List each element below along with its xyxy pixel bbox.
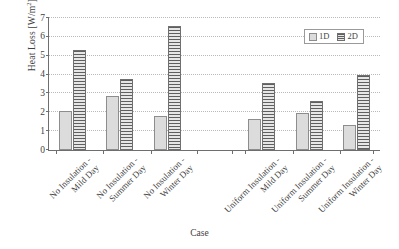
gridline [49,130,380,131]
x-tick-mark [293,150,294,154]
bar-1d-3 [154,116,167,150]
x-tick-mark [103,150,104,154]
x-axis-title: Case [0,228,399,238]
gridline [49,74,380,75]
bar-2d-3 [168,26,181,150]
y-tick-label: 3 [25,89,45,99]
bar-1d-5 [296,113,309,150]
gridline [49,111,380,112]
y-tick-mark [46,149,49,150]
x-tick-mark [245,150,246,154]
bar-chart: Heat Loss [W/m2] 01234567 No Insulation … [0,0,399,249]
y-tick-label: 7 [25,14,45,24]
legend-label-2d: 2D [347,32,357,41]
x-tick-mark [340,150,341,154]
y-tick-mark [46,36,49,37]
bar-2d-1 [73,50,86,150]
y-tick-label: 0 [25,146,45,156]
y-tick-label: 4 [25,70,45,80]
y-tick-label: 5 [25,51,45,61]
y-tick-mark [46,130,49,131]
legend-swatch-1d-icon [309,33,317,41]
y-tick-label: 2 [25,108,45,118]
bar-2d-6 [357,75,370,150]
chart-legend: 1D 2D [304,29,364,44]
x-tick-mark [373,150,374,154]
legend-entry-2d: 2D [337,32,357,41]
y-axis-title-exponent: 2 [25,2,32,5]
y-tick-mark [46,111,49,112]
gridline [49,17,380,18]
bar-1d-4 [248,119,261,150]
x-tick-mark [197,150,198,154]
bar-1d-6 [343,125,356,150]
legend-entry-1d: 1D [309,32,329,41]
y-tick-mark [46,74,49,75]
gridline [49,55,380,56]
legend-label-1d: 1D [319,32,329,41]
x-tick-mark [232,150,233,154]
bar-1d-1 [59,111,72,150]
x-tick-mark [151,150,152,154]
bar-2d-4 [262,83,275,150]
y-tick-mark [46,92,49,93]
y-tick-mark [46,17,49,18]
legend-swatch-2d-icon [337,33,345,41]
bar-2d-5 [310,101,323,150]
bar-1d-2 [106,96,119,150]
y-tick-mark [46,55,49,56]
y-axis-title-tail: ] [27,0,37,2]
y-tick-label: 1 [25,127,45,137]
x-tick-mark [56,150,57,154]
gridline [49,92,380,93]
y-tick-label: 6 [25,32,45,42]
bar-2d-2 [120,79,133,150]
